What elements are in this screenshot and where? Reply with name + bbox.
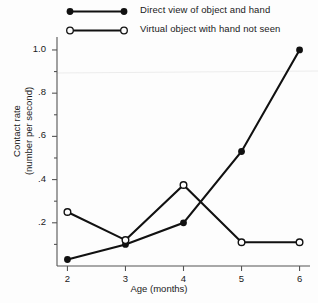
data-point <box>296 47 303 54</box>
y-tick-label: .2 <box>20 216 46 227</box>
x-axis-title: Age (months) <box>0 283 318 294</box>
y-axis-title: Contact rate (number per second) <box>11 56 35 206</box>
data-point <box>180 182 187 189</box>
data-point <box>64 209 71 216</box>
data-point <box>64 256 71 263</box>
plot-area <box>0 0 318 303</box>
data-point <box>238 239 245 246</box>
data-point <box>238 148 245 155</box>
chart-series-layer <box>64 47 303 263</box>
y-axis-title-line2: (number per second) <box>23 56 35 206</box>
series-line <box>67 185 299 242</box>
data-point <box>180 219 187 226</box>
y-axis-title-line1: Contact rate <box>11 56 23 206</box>
scan-artifact-line <box>57 71 318 73</box>
data-point <box>296 239 303 246</box>
chart-container: Direct view of object and hand Virtual o… <box>0 0 318 303</box>
y-tick-label: 1.0 <box>20 43 46 54</box>
data-point <box>122 237 129 244</box>
